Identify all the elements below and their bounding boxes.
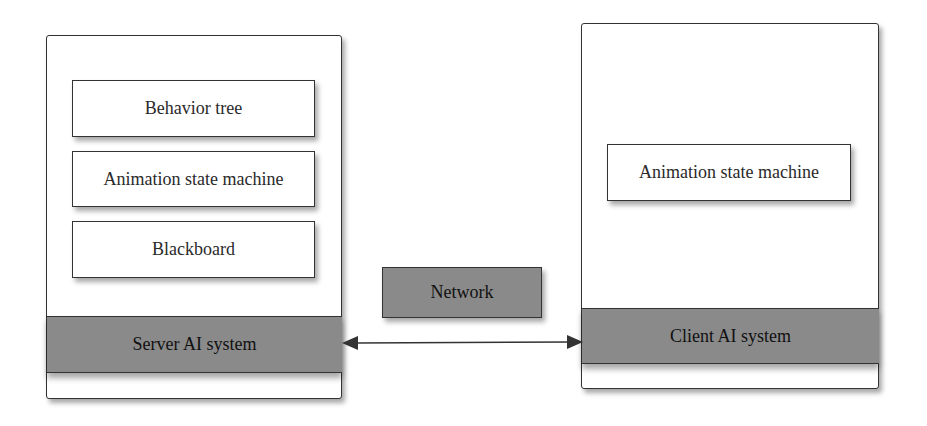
bidirectional-arrow-icon xyxy=(0,0,927,426)
